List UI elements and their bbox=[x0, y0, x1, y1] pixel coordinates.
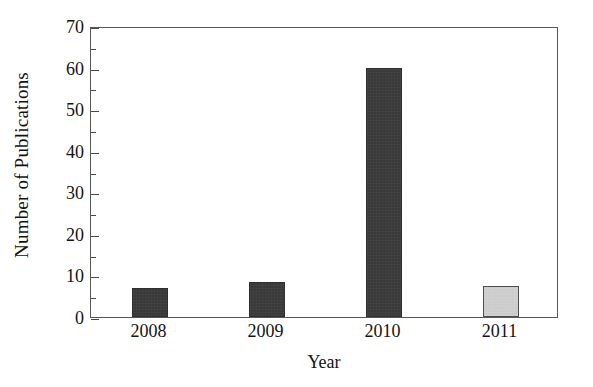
y-axis-tick-labels: 010203040506070 bbox=[40, 27, 84, 318]
y-tick-label: 0 bbox=[44, 309, 84, 327]
plot-area bbox=[90, 27, 558, 318]
y-tick-label: 50 bbox=[44, 101, 84, 119]
x-tick-label-2009: 2009 bbox=[248, 322, 284, 340]
y-tick-major bbox=[91, 319, 99, 320]
y-axis-title: Number of Publications bbox=[0, 0, 44, 330]
y-tick-label: 70 bbox=[44, 18, 84, 36]
x-axis-title: Year bbox=[90, 352, 558, 373]
y-tick-label: 10 bbox=[44, 267, 84, 285]
bar-2011 bbox=[483, 286, 519, 317]
y-tick-label: 20 bbox=[44, 226, 84, 244]
x-axis-title-text: Year bbox=[307, 352, 340, 372]
y-tick-label: 40 bbox=[44, 143, 84, 161]
x-tick-label-2010: 2010 bbox=[365, 322, 401, 340]
x-tick-label-2008: 2008 bbox=[131, 322, 167, 340]
y-axis-title-text: Number of Publications bbox=[11, 72, 33, 258]
x-tick-label-2011: 2011 bbox=[482, 322, 517, 340]
x-axis-tick-labels: 2008200920102011 bbox=[90, 322, 558, 352]
bar-2009 bbox=[249, 282, 285, 317]
bar-chart-figure: Number of Publications 010203040506070 2… bbox=[0, 0, 593, 387]
bars-layer bbox=[91, 28, 557, 317]
bar-2010 bbox=[366, 68, 402, 317]
bar-2008 bbox=[132, 288, 168, 317]
y-tick-label: 30 bbox=[44, 184, 84, 202]
y-tick-label: 60 bbox=[44, 60, 84, 78]
